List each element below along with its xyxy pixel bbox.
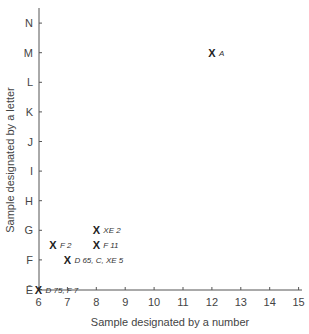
y-tick-label: L [27,76,33,88]
x-marker-icon: X [93,239,101,251]
y-tick-label: I [30,165,33,177]
x-tick-label: 7 [64,296,70,308]
data-point: XD 75, F 7 [35,284,79,296]
data-point: XD 65, C, XE 5 [64,254,124,266]
y-tick-label: Ē [26,284,33,296]
point-label: D 75, F 7 [46,286,79,295]
x-tick-label: 9 [122,296,128,308]
y-tick-label: F [26,254,33,266]
axes [39,8,302,290]
x-marker-icon: X [64,254,72,266]
point-label: XE 2 [102,226,121,235]
scatter-chart: 6789101112131415 ĒFGHIJKLMN XAXXE 2XF 2X… [0,0,309,334]
data-point: XXE 2 [93,224,122,236]
data-point: XF 11 [93,239,119,251]
y-tick-label: H [25,195,33,207]
x-tick-label: 15 [292,296,304,308]
y-tick-label: N [25,17,33,29]
y-tick-label: J [28,136,34,148]
x-tick-label: 14 [264,296,276,308]
data-point: XF 2 [49,239,72,251]
x-marker-icon: X [208,47,216,59]
y-tick-label: M [24,47,33,59]
x-tick-label: 8 [93,296,99,308]
y-tick-label: G [24,224,33,236]
x-tick-label: 11 [177,296,188,308]
x-tick-label: 6 [35,296,41,308]
point-label: F 2 [60,241,72,250]
x-marker-icon: X [93,224,101,236]
x-tick-label: 13 [235,296,247,308]
point-label: D 65, C, XE 5 [74,256,123,265]
data-points: XAXXE 2XF 2XF 11XD 65, C, XE 5XD 75, F 7 [35,47,224,296]
data-point: XA [208,47,224,59]
x-tick-label: 10 [148,296,160,308]
y-axis-title: Sample designated by a letter [4,87,16,233]
x-marker-icon: X [49,239,57,251]
x-marker-icon: X [35,284,43,296]
y-tick-label: K [26,106,34,118]
x-axis-title: Sample designated by a number [91,316,250,328]
point-label: F 11 [103,241,118,250]
point-label: A [218,49,224,58]
x-tick-label: 12 [206,296,218,308]
